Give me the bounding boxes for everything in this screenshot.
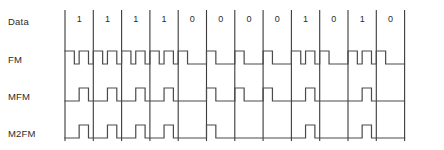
mfm-waveform <box>65 88 405 101</box>
timing-diagram-figure: Data FM MFM M2FM 111100001010 <box>0 0 444 150</box>
fm-waveform <box>65 51 405 64</box>
clock-line-group <box>65 10 405 141</box>
waveform-canvas <box>0 0 444 150</box>
